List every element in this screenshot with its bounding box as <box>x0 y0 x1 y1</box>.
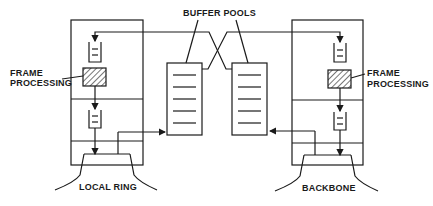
buffer-pools-label: BUFFER POOLS <box>183 8 256 18</box>
diagram-graphics <box>0 0 433 206</box>
left-frame-processing-label-1: FRAME <box>10 68 43 78</box>
bridge-buffer-diagram: BUFFER POOLS FRAME PROCESSING FRAME PROC… <box>0 0 433 206</box>
backbone-label: BACKBONE <box>302 183 356 193</box>
local-ring-label: LOCAL RING <box>79 182 137 192</box>
right-buffer-pool <box>232 63 267 135</box>
left-buffer-pool <box>167 63 202 135</box>
left-port-box <box>55 20 165 190</box>
right-frame-processing-label-1: FRAME <box>367 68 400 78</box>
left-frame-processing-label-2: PROCESSING <box>10 78 72 88</box>
right-port-box <box>270 20 378 191</box>
right-frame-processing-label-2: PROCESSING <box>367 79 429 89</box>
